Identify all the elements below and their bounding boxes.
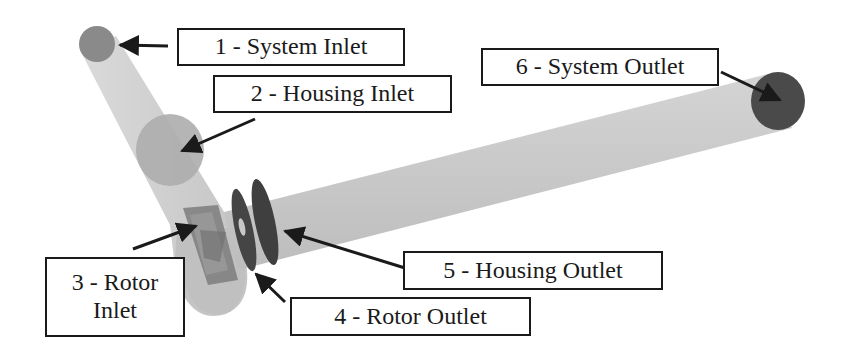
label-system-outlet: 6 - System Outlet (481, 48, 719, 86)
housing-inlet-disc (136, 114, 204, 186)
arrow-rotor-outlet (256, 274, 285, 302)
arrow-system-inlet (120, 45, 168, 46)
system-inlet-disc (79, 26, 115, 62)
label-housing-inlet: 2 - Housing Inlet (213, 75, 452, 113)
label-rotor-inlet: 3 - Rotor Inlet (45, 257, 185, 337)
label-housing-outlet: 5 - Housing Outlet (403, 251, 663, 290)
system-outlet-disc (751, 72, 805, 130)
label-rotor-outlet: 4 - Rotor Outlet (290, 297, 531, 336)
label-system-inlet: 1 - System Inlet (177, 28, 405, 66)
